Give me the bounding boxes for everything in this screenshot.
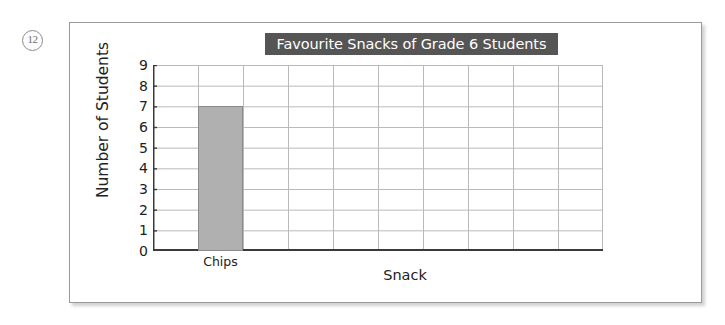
y-axis-title: Number of Students bbox=[94, 25, 112, 215]
y-axis-tick-labels: 0123456789 bbox=[126, 59, 148, 245]
y-axis-tick-label: 0 bbox=[126, 243, 148, 259]
y-axis-tick-label: 1 bbox=[126, 222, 148, 238]
x-axis-title: Snack bbox=[145, 267, 665, 283]
y-axis-tick-label: 3 bbox=[126, 181, 148, 197]
y-axis-tick-label: 7 bbox=[126, 98, 148, 114]
y-axis-tick-label: 6 bbox=[126, 119, 148, 135]
question-number-marker: 12 bbox=[22, 30, 43, 51]
plot-area bbox=[153, 65, 603, 251]
bar bbox=[198, 106, 243, 251]
y-axis-tick-label: 8 bbox=[126, 78, 148, 94]
bar-chart: Number of Students 0123456789 Chips Snac… bbox=[70, 23, 703, 304]
y-axis-tick-label: 2 bbox=[126, 202, 148, 218]
bars-layer bbox=[153, 65, 603, 251]
figure-panel: Favourite Snacks of Grade 6 Students Num… bbox=[69, 22, 702, 303]
y-axis-tick-label: 9 bbox=[126, 57, 148, 73]
y-axis-tick-label: 5 bbox=[126, 140, 148, 156]
y-axis-tick-label: 4 bbox=[126, 160, 148, 176]
